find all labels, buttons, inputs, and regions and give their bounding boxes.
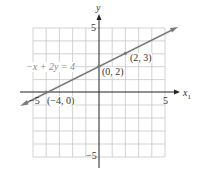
point-label-2-3: (2, 3) bbox=[130, 53, 152, 63]
x-max-tick-label: 5 bbox=[163, 96, 168, 106]
equation-label: −x + 2y = 4 bbox=[26, 62, 75, 72]
point-2-3 bbox=[124, 52, 127, 55]
line-arrow-start-icon bbox=[20, 100, 29, 106]
point-label-0-2: (0, 2) bbox=[102, 67, 124, 77]
point-label-neg4-0: (−4, 0) bbox=[47, 96, 74, 106]
x-axis-arrow-icon bbox=[174, 90, 180, 95]
point-0-2 bbox=[97, 65, 100, 68]
coordinate-plane bbox=[0, 0, 198, 176]
x-axis-label: x1 bbox=[183, 88, 191, 101]
line-arrow-end-icon bbox=[170, 27, 178, 33]
y-max-tick-label: 5 bbox=[91, 23, 96, 33]
x-axis-label-sub: 1 bbox=[187, 93, 191, 101]
y-axis-label: y bbox=[96, 3, 100, 13]
point-neg4-0 bbox=[45, 90, 48, 93]
y-min-tick-label: −5 bbox=[86, 151, 97, 161]
y-axis-arrow-icon bbox=[97, 14, 102, 20]
x-min-tick-label: −5 bbox=[29, 96, 40, 106]
